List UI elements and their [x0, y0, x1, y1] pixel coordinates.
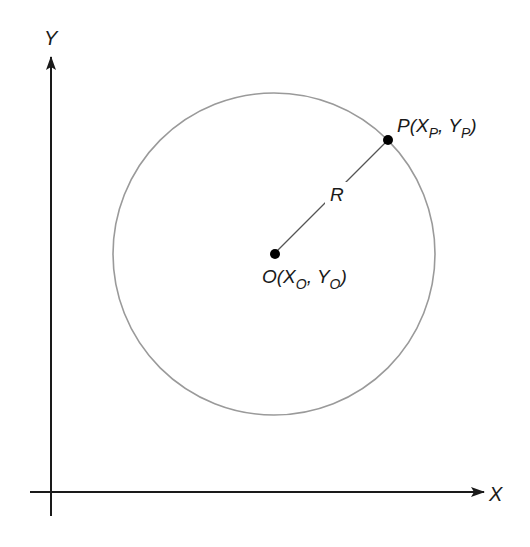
o-sub-x: O — [296, 276, 307, 292]
o-sub-y: O — [330, 276, 341, 292]
o-mid: , Y — [307, 266, 331, 287]
center-point-label: O(XO, YO) — [262, 266, 347, 292]
o-close: ) — [338, 266, 346, 287]
p-close: ) — [468, 115, 476, 136]
o-open: O(X — [262, 266, 297, 287]
p-open: P(X — [397, 115, 430, 136]
p-mid: , Y — [438, 115, 462, 136]
y-axis-label: Y — [44, 27, 59, 49]
perimeter-point — [383, 135, 393, 145]
circle-coordinate-diagram: Y X R P(XP, YP) O(XO, YO) — [0, 0, 530, 547]
x-axis-label: X — [488, 483, 503, 505]
center-point — [270, 249, 280, 259]
radius-label: R — [330, 184, 344, 205]
perimeter-point-label: P(XP, YP) — [397, 115, 477, 141]
